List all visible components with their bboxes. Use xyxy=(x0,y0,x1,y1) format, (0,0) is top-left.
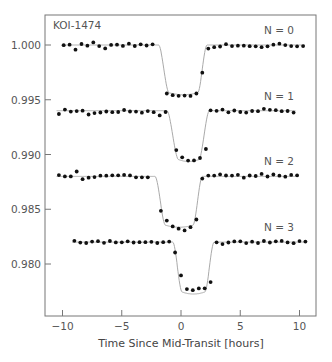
data-point xyxy=(250,240,254,244)
data-point xyxy=(209,108,213,112)
data-point xyxy=(268,108,272,112)
data-point xyxy=(140,111,144,115)
data-point xyxy=(110,173,114,177)
data-point xyxy=(179,274,183,278)
data-point xyxy=(215,109,219,113)
data-point xyxy=(209,280,213,284)
data-point xyxy=(183,229,187,233)
data-point xyxy=(242,44,246,48)
data-point xyxy=(146,175,150,179)
data-point xyxy=(227,241,231,245)
data-point xyxy=(81,177,85,181)
data-point xyxy=(200,71,204,75)
data-point xyxy=(146,109,150,113)
y-tick-label: 0.985 xyxy=(11,203,41,215)
data-point xyxy=(260,172,264,176)
data-point xyxy=(191,288,195,292)
data-point xyxy=(183,94,187,98)
data-point xyxy=(227,110,231,114)
data-point xyxy=(244,241,248,245)
data-point xyxy=(102,241,106,245)
data-point xyxy=(177,94,181,98)
data-point xyxy=(69,175,73,179)
data-point xyxy=(150,240,154,244)
series-label: N = 0 xyxy=(264,24,294,36)
data-point xyxy=(63,175,67,179)
data-point xyxy=(254,44,258,48)
data-point xyxy=(159,209,163,213)
data-point xyxy=(260,45,264,49)
data-point xyxy=(218,45,222,49)
data-point xyxy=(120,240,124,244)
data-point xyxy=(256,109,260,113)
data-point xyxy=(116,110,120,114)
data-point xyxy=(221,242,225,246)
x-tick-label: 5 xyxy=(237,320,244,332)
data-point xyxy=(171,93,175,97)
data-point xyxy=(134,110,138,114)
y-tick-label: 0.995 xyxy=(11,94,41,106)
data-point xyxy=(218,173,222,177)
y-tick-label: 0.980 xyxy=(11,258,41,270)
data-point xyxy=(177,227,181,231)
data-point xyxy=(57,173,61,177)
data-point xyxy=(232,109,236,113)
data-point xyxy=(272,173,276,177)
data-point xyxy=(87,176,91,180)
data-point xyxy=(74,48,78,52)
data-point xyxy=(189,225,193,229)
x-axis-title: Time Since Mid-Transit [hours] xyxy=(97,337,264,350)
data-point xyxy=(165,219,169,223)
data-point xyxy=(236,44,240,48)
data-point xyxy=(295,173,299,177)
data-point xyxy=(134,175,138,179)
data-point xyxy=(197,287,201,291)
model-curve xyxy=(61,45,304,95)
data-point xyxy=(75,170,79,174)
data-point xyxy=(138,240,142,244)
data-point xyxy=(99,174,103,178)
data-point xyxy=(84,241,88,245)
data-point xyxy=(104,110,108,114)
data-point xyxy=(127,42,131,46)
data-point xyxy=(292,241,296,245)
data-point xyxy=(68,43,72,47)
data-point xyxy=(278,42,282,46)
data-point xyxy=(189,94,193,98)
data-point xyxy=(140,175,144,179)
data-point xyxy=(128,174,132,178)
data-point xyxy=(212,45,216,49)
transit-light-curve-chart: −10−505101.0000.9950.9900.9850.980 N = 0… xyxy=(0,0,332,362)
series-label: N = 1 xyxy=(264,90,294,102)
data-point xyxy=(108,239,112,243)
data-point xyxy=(301,44,305,48)
data-point xyxy=(283,43,287,47)
data-point xyxy=(99,111,103,115)
data-point xyxy=(78,241,82,245)
data-point xyxy=(280,239,284,243)
data-point xyxy=(238,239,242,243)
data-point xyxy=(236,173,240,177)
data-point xyxy=(122,173,126,177)
data-point xyxy=(116,173,120,177)
data-point xyxy=(266,44,270,48)
model-curve xyxy=(57,176,299,227)
data-point xyxy=(152,110,156,114)
data-point xyxy=(103,47,107,51)
data-point xyxy=(232,240,236,244)
data-point xyxy=(230,174,234,178)
y-tick-label: 1.000 xyxy=(11,39,41,51)
data-point xyxy=(145,44,149,48)
data-point xyxy=(298,239,302,243)
data-point xyxy=(161,240,165,244)
data-point xyxy=(224,174,228,178)
series-labels: N = 0N = 1N = 2N = 3 xyxy=(264,24,294,233)
data-point xyxy=(204,147,208,151)
data-point xyxy=(262,107,266,111)
model-curve xyxy=(72,242,307,294)
data-point xyxy=(90,240,94,244)
model-curve xyxy=(57,111,296,162)
data-point xyxy=(93,111,97,115)
data-point xyxy=(73,239,77,243)
data-point xyxy=(109,43,113,47)
